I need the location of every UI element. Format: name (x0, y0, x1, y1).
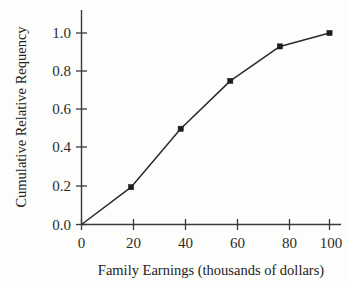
cumulative-frequency-chart: 1.0 0.8 0.6 0.4 0.2 0.0 0 20 40 60 80 10… (0, 0, 347, 286)
x-tick-label-40: 40 (178, 235, 193, 251)
x-tick-label-0: 0 (78, 235, 86, 251)
y-tick-labels: 1.0 0.8 0.6 0.4 0.2 0.0 (52, 25, 71, 233)
y-tick-label-0.2: 0.2 (52, 178, 71, 194)
x-tick-label-100: 100 (320, 235, 343, 251)
cumulative-frequency-line (82, 33, 330, 225)
plot-area: 1.0 0.8 0.6 0.4 0.2 0.0 0 20 40 60 80 10… (0, 0, 347, 286)
data-point-40 (178, 126, 183, 131)
y-tick-label-0.4: 0.4 (52, 139, 71, 155)
data-point-100 (327, 30, 332, 35)
y-tick-label-0.8: 0.8 (52, 63, 71, 79)
y-tick-label-1.0: 1.0 (52, 25, 71, 41)
x-axis-title: Family Earnings (thousands of dollars) (98, 262, 325, 279)
data-point-20 (129, 185, 134, 190)
data-point-markers (129, 30, 333, 189)
x-tick-label-60: 60 (230, 235, 245, 251)
data-point-80 (277, 44, 282, 49)
x-tick-labels: 0 20 40 60 80 100 (78, 235, 343, 251)
x-tick-label-80: 80 (282, 235, 297, 251)
y-axis-title: Cumulative Relative Requency (13, 26, 29, 208)
data-point-60 (228, 78, 233, 83)
x-tick-label-20: 20 (126, 235, 141, 251)
y-tick-label-0.6: 0.6 (52, 101, 71, 117)
y-tick-label-0.0: 0.0 (52, 217, 71, 233)
